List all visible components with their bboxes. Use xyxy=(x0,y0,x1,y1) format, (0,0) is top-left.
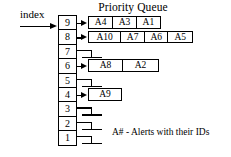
alert-list-row-4: A9 xyxy=(88,88,122,101)
alert-list-row-6: A8A2 xyxy=(88,59,159,72)
index-cell-2[interactable]: 2 xyxy=(59,117,76,131)
alert-node[interactable]: A7 xyxy=(121,32,145,43)
legend-caption: A# - Alerts with their IDs xyxy=(112,127,209,138)
alert-node[interactable]: A1 xyxy=(137,17,160,28)
alert-node[interactable]: A2 xyxy=(123,60,158,71)
priority-queue-diagram: Priority Queue index 987654321 A4A3A1A10… xyxy=(0,0,231,157)
alert-list-row-9: A4A3A1 xyxy=(88,16,161,29)
alert-node[interactable]: A6 xyxy=(145,32,169,43)
queue-row-8: A10A7A6A5 xyxy=(77,29,231,43)
diagram-title: Priority Queue xyxy=(78,1,188,14)
queue-row-7 xyxy=(77,44,231,58)
queue-row-6: A8A2 xyxy=(77,58,231,72)
arrow-head xyxy=(81,20,87,26)
index-cell-3[interactable]: 3 xyxy=(59,102,76,116)
queue-row-9: A4A3A1 xyxy=(77,15,231,29)
alert-node[interactable]: A10 xyxy=(89,32,121,43)
index-cell-6[interactable]: 6 xyxy=(59,59,76,73)
bucket-pointer-arrow-icon xyxy=(77,92,87,99)
alert-node[interactable]: A4 xyxy=(89,17,113,28)
bucket-pointer-arrow-icon xyxy=(77,34,87,41)
arrow-head xyxy=(81,92,87,98)
index-cell-4[interactable]: 4 xyxy=(59,88,76,102)
alert-node[interactable]: A9 xyxy=(89,89,121,100)
queue-row-3 xyxy=(77,101,231,115)
bucket-pointer-arrow-icon xyxy=(77,20,87,27)
queue-row-4: A9 xyxy=(77,87,231,101)
priority-index-column: 987654321 xyxy=(58,15,77,146)
index-pointer-arrow-icon xyxy=(20,23,58,30)
null-pointer-icon xyxy=(77,134,103,146)
index-cell-8[interactable]: 8 xyxy=(59,30,76,44)
arrow-head xyxy=(81,63,87,69)
index-cell-7[interactable]: 7 xyxy=(59,45,76,59)
index-arrow-shaft xyxy=(20,26,52,27)
index-cell-1[interactable]: 1 xyxy=(59,131,76,145)
arrow-head xyxy=(81,34,87,40)
null-line-terminator xyxy=(82,143,102,144)
alert-node[interactable]: A5 xyxy=(168,32,192,43)
alert-node[interactable]: A8 xyxy=(89,60,123,71)
index-label: index xyxy=(20,8,44,20)
alert-node[interactable]: A3 xyxy=(113,17,136,28)
alert-list-row-8: A10A7A6A5 xyxy=(88,31,193,44)
index-cell-5[interactable]: 5 xyxy=(59,74,76,88)
index-arrow-head xyxy=(50,23,57,29)
queue-row-5 xyxy=(77,73,231,87)
bucket-pointer-arrow-icon xyxy=(77,63,87,70)
index-cell-9[interactable]: 9 xyxy=(59,16,76,30)
